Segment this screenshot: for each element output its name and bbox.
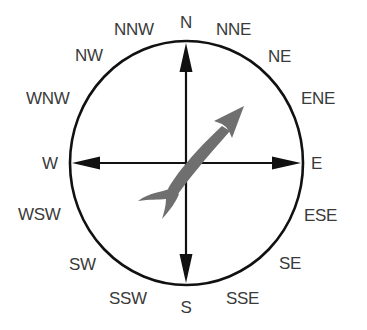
label-e: E xyxy=(311,154,322,173)
label-wnw: WNW xyxy=(26,89,70,108)
label-nne: NNE xyxy=(216,20,251,39)
label-ese: ESE xyxy=(304,206,337,225)
label-ne: NE xyxy=(268,47,291,66)
label-s: S xyxy=(180,298,191,317)
label-n: N xyxy=(180,13,192,32)
label-nnw: NNW xyxy=(114,20,154,39)
compass-diagram: N NNE NE ENE E ESE SE SSE S SSW SW WSW W… xyxy=(0,0,367,330)
label-w: W xyxy=(42,154,58,173)
label-sw: SW xyxy=(69,255,96,274)
label-ene: ENE xyxy=(301,89,335,108)
north-arrowhead-icon xyxy=(180,43,193,72)
label-se: SE xyxy=(279,254,301,273)
label-wsw: WSW xyxy=(18,205,61,224)
south-arrowhead-icon xyxy=(180,254,193,283)
east-arrowhead-icon xyxy=(272,157,301,170)
label-ssw: SSW xyxy=(109,289,147,308)
label-nw: NW xyxy=(75,46,103,65)
west-arrowhead-icon xyxy=(72,157,100,170)
label-sse: SSE xyxy=(226,289,259,308)
